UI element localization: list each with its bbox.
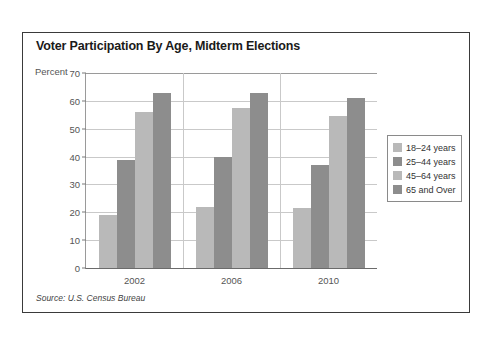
plot-area: 010203040506070200220062010: [85, 73, 377, 269]
group-separator: [280, 73, 281, 268]
x-axis-tick-label: 2006: [221, 275, 242, 286]
legend-item-label: 25–44 years: [406, 157, 456, 167]
y-axis-tick-label: 60: [69, 95, 80, 106]
bar-2002-series-0: [99, 215, 117, 268]
source-note: Source: U.S. Census Bureau: [36, 293, 145, 303]
bar-2010-series-2: [329, 116, 347, 268]
group-separator: [183, 73, 184, 268]
y-axis-tick-label: 10: [69, 235, 80, 246]
bar-2010-series-1: [311, 165, 329, 268]
y-axis-tick-mark: [82, 100, 86, 101]
y-axis-tick-mark: [82, 156, 86, 157]
bar-2006-series-3: [250, 93, 268, 268]
gridline: [86, 101, 377, 102]
y-axis-tick-mark: [82, 212, 86, 213]
chart-legend: 18–24 years25–44 years45–64 years65 and …: [387, 135, 462, 202]
y-axis-tick-label: 20: [69, 207, 80, 218]
page-title: Voter Participation By Age, Midterm Elec…: [36, 39, 300, 53]
legend-swatch-icon: [393, 157, 402, 166]
y-axis-tick-label: 70: [69, 68, 80, 79]
legend-item[interactable]: 18–24 years: [393, 141, 456, 154]
legend-swatch-icon: [393, 185, 402, 194]
y-axis-tick-mark: [82, 240, 86, 241]
bar-2010-series-0: [293, 208, 311, 268]
bar-2006-series-1: [214, 157, 232, 268]
legend-item-label: 45–64 years: [406, 171, 456, 181]
chart-card: Voter Participation By Age, Midterm Elec…: [22, 32, 470, 313]
legend-swatch-icon: [393, 143, 402, 152]
legend-item[interactable]: 45–64 years: [393, 169, 456, 182]
legend-item[interactable]: 25–44 years: [393, 155, 456, 168]
y-axis-tick-label: 50: [69, 123, 80, 134]
y-axis-tick-label: 0: [75, 263, 80, 274]
bar-2010-series-3: [347, 98, 365, 268]
legend-item[interactable]: 65 and Over: [393, 183, 456, 196]
y-axis-tick-label: 40: [69, 151, 80, 162]
bar-2002-series-1: [117, 160, 135, 268]
bar-2002-series-3: [153, 93, 171, 268]
y-axis-title: Percent: [35, 66, 68, 77]
legend-swatch-icon: [393, 171, 402, 180]
y-axis-tick-label: 30: [69, 179, 80, 190]
x-axis-tick-label: 2002: [124, 275, 145, 286]
gridline: [86, 73, 377, 74]
legend-item-label: 18–24 years: [406, 143, 456, 153]
bar-2006-series-2: [232, 108, 250, 268]
y-axis-tick-mark: [82, 268, 86, 269]
y-axis-tick-mark: [82, 128, 86, 129]
bar-2006-series-0: [196, 207, 214, 268]
y-axis-tick-mark: [82, 184, 86, 185]
y-axis-tick-mark: [82, 73, 86, 74]
bar-2002-series-2: [135, 112, 153, 268]
x-axis-tick-label: 2010: [318, 275, 339, 286]
legend-item-label: 65 and Over: [406, 185, 456, 195]
